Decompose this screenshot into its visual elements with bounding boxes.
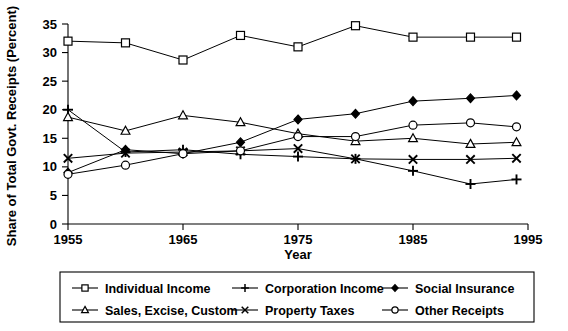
y-tick-label: 30 (43, 45, 57, 60)
marker-triangle-open (64, 113, 73, 121)
y-axis-title-text: Share of Total Govt. Receipts (Percent) (4, 6, 19, 246)
y-tick-label: 5 (50, 188, 57, 203)
legend-item-social-insurance[interactable]: Social Insurance (382, 282, 514, 296)
marker-circle-open (122, 161, 130, 169)
marker-circle-open (64, 170, 72, 178)
legend-item-sales-excise-custom[interactable]: Sales, Excise, Custom (72, 304, 238, 318)
legend-label: Corporation Income (265, 282, 384, 296)
marker-triangle-open (512, 138, 521, 146)
marker-square-open (352, 22, 360, 30)
data-series-layer (63, 22, 522, 189)
marker-plus (408, 166, 418, 176)
marker-diamond-solid (467, 94, 475, 103)
marker-square-open (237, 31, 245, 39)
legend-label: Social Insurance (415, 282, 514, 296)
marker-diamond-solid (352, 109, 360, 118)
marker-diamond-solid (513, 91, 521, 100)
legend-label: Other Receipts (415, 304, 504, 318)
marker-square-open (82, 285, 88, 291)
marker-plus (241, 284, 249, 292)
y-tick-label: 15 (43, 131, 57, 146)
series-sales-excise-custom (64, 111, 521, 148)
x-tick-label: 1985 (399, 232, 428, 247)
marker-diamond-solid (392, 285, 398, 292)
marker-square-open (64, 37, 72, 45)
marker-triangle-open (409, 134, 418, 142)
legend-label: Property Taxes (265, 304, 354, 318)
y-axis-ticks: 05101520253035 (43, 17, 68, 232)
series-property-taxes (64, 144, 521, 163)
marker-diamond-solid (409, 97, 417, 106)
x-tick-label: 1975 (284, 232, 313, 247)
marker-circle-open (179, 150, 187, 158)
x-tick-label: 1995 (514, 232, 543, 247)
series-polyline (68, 26, 517, 60)
chart-container: Share of Total Govt. Receipts (Percent) … (0, 0, 568, 331)
marker-circle-open (409, 121, 417, 129)
y-tick-label: 0 (50, 217, 57, 232)
line-chart-svg: Share of Total Govt. Receipts (Percent) … (0, 0, 568, 331)
legend-item-property-taxes[interactable]: Property Taxes (232, 304, 354, 318)
marker-plus (466, 179, 476, 189)
marker-square-open (467, 33, 475, 41)
x-tick-label: 1965 (169, 232, 198, 247)
legend-item-other-receipts[interactable]: Other Receipts (382, 304, 504, 318)
y-tick-label: 20 (43, 102, 57, 117)
marker-diamond-solid (237, 138, 245, 147)
series-polyline (68, 115, 517, 144)
y-tick-label: 25 (43, 74, 57, 89)
x-axis-ticks: 19551965197519851995 (54, 224, 543, 247)
x-tick-label: 1955 (54, 232, 83, 247)
legend-label: Sales, Excise, Custom (105, 304, 238, 318)
series-polyline (68, 110, 517, 184)
marker-diamond-solid (294, 115, 302, 124)
marker-square-open (513, 33, 521, 41)
legend-label: Individual Income (105, 282, 211, 296)
marker-circle-open (352, 133, 360, 141)
marker-plus (512, 174, 522, 184)
legend: Individual IncomeCorporation IncomeSocia… (72, 282, 514, 318)
legend-item-corporation-income[interactable]: Corporation Income (232, 282, 384, 296)
y-tick-label: 35 (43, 17, 57, 32)
marker-triangle-open (179, 111, 188, 119)
series-polyline (68, 95, 517, 172)
marker-square-open (122, 39, 130, 47)
marker-square-open (409, 33, 417, 41)
marker-circle-open (237, 147, 245, 155)
marker-square-open (294, 43, 302, 51)
y-axis-title: Share of Total Govt. Receipts (Percent) (4, 6, 19, 246)
marker-square-open (179, 56, 187, 64)
marker-circle-open (513, 123, 521, 131)
series-corporation-income (63, 105, 522, 189)
marker-circle-open (294, 133, 302, 141)
y-tick-label: 10 (43, 159, 57, 174)
series-individual-income (64, 22, 521, 64)
legend-item-individual-income[interactable]: Individual Income (72, 282, 211, 296)
marker-circle-open (467, 119, 475, 127)
x-axis-title-text: Year (284, 247, 311, 262)
marker-circle-open (392, 307, 398, 313)
